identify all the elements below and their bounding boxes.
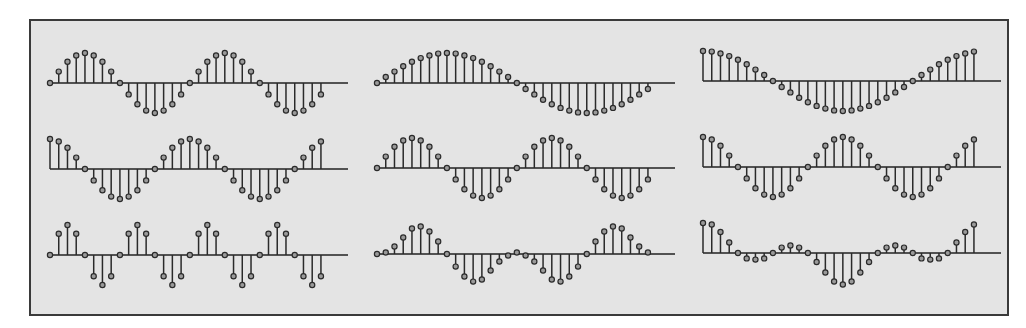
stem-marker xyxy=(248,69,253,74)
stem-marker xyxy=(506,177,511,182)
stem-marker xyxy=(823,270,828,275)
stem-marker xyxy=(135,102,140,107)
stem-marker xyxy=(409,226,414,231)
stem-marker xyxy=(257,80,262,85)
stem-marker xyxy=(318,274,323,279)
stem-marker xyxy=(540,138,545,143)
stem-marker xyxy=(919,256,924,261)
stem-marker xyxy=(240,282,245,287)
stem-marker xyxy=(471,193,476,198)
stem-marker xyxy=(954,240,959,245)
stem-marker xyxy=(928,257,933,262)
stem-marker xyxy=(205,59,210,64)
stem-marker xyxy=(152,110,157,115)
stem-marker xyxy=(549,135,554,140)
stem-marker xyxy=(770,250,775,255)
stem-marker xyxy=(374,80,379,85)
stem-marker xyxy=(479,59,484,64)
stem-marker xyxy=(248,274,253,279)
stem-marker xyxy=(866,103,871,108)
stem-marker xyxy=(936,176,941,181)
stem-marker xyxy=(161,108,166,113)
stem-marker xyxy=(840,282,845,287)
stem-marker xyxy=(436,51,441,56)
stem-marker xyxy=(805,164,810,169)
stem-marker xyxy=(971,49,976,54)
stem-marker xyxy=(213,155,218,160)
stem-marker xyxy=(240,59,245,64)
stem-marker xyxy=(117,80,122,85)
stem-marker xyxy=(637,92,642,97)
stem-marker xyxy=(797,176,802,181)
stem-marker xyxy=(709,222,714,227)
stem-marker xyxy=(637,187,642,192)
stem-marker xyxy=(727,240,732,245)
stem-marker xyxy=(709,49,714,54)
stem-marker xyxy=(936,256,941,261)
stem-marker xyxy=(575,264,580,269)
stem-marker xyxy=(187,80,192,85)
stem-marker xyxy=(91,53,96,58)
stem-marker xyxy=(144,108,149,113)
stem-marker xyxy=(275,188,280,193)
stem-marker xyxy=(532,259,537,264)
stem-marker xyxy=(779,245,784,250)
stem-marker xyxy=(82,252,87,257)
stem-marker xyxy=(275,102,280,107)
stem-marker xyxy=(462,274,467,279)
stem-marker xyxy=(610,193,615,198)
stem-marker xyxy=(832,108,837,113)
stem-marker xyxy=(910,194,915,199)
stem-marker xyxy=(567,274,572,279)
stem-marker xyxy=(275,222,280,227)
stem-marker xyxy=(770,194,775,199)
stem-plot-row2-col2 xyxy=(374,135,675,200)
stem-marker xyxy=(523,154,528,159)
stem-marker xyxy=(735,164,740,169)
stem-marker xyxy=(884,176,889,181)
stem-marker xyxy=(74,155,79,160)
stem-marker xyxy=(901,245,906,250)
stem-marker xyxy=(884,95,889,100)
stem-marker xyxy=(788,90,793,95)
stem-marker xyxy=(56,69,61,74)
stem-marker xyxy=(301,155,306,160)
stem-plot-row2-col1 xyxy=(47,136,348,201)
stem-marker xyxy=(744,176,749,181)
stem-marker xyxy=(718,51,723,56)
stem-marker xyxy=(558,279,563,284)
stem-marker xyxy=(374,165,379,170)
stem-marker xyxy=(401,235,406,240)
stem-marker xyxy=(152,252,157,257)
stem-marker xyxy=(727,54,732,59)
stem-marker xyxy=(488,268,493,273)
stem-marker xyxy=(471,56,476,61)
stem-marker xyxy=(418,138,423,143)
stem-marker xyxy=(610,224,615,229)
stem-marker xyxy=(910,250,915,255)
stem-marker xyxy=(418,224,423,229)
stem-marker xyxy=(549,277,554,282)
stem-marker xyxy=(840,134,845,139)
stem-marker xyxy=(383,154,388,159)
stem-marker xyxy=(963,51,968,56)
stem-marker xyxy=(205,145,210,150)
stem-marker xyxy=(170,102,175,107)
stem-marker xyxy=(700,220,705,225)
stem-marker xyxy=(74,53,79,58)
stem-marker xyxy=(257,252,262,257)
stem-marker xyxy=(409,59,414,64)
stem-marker xyxy=(471,279,476,284)
stem-marker xyxy=(462,187,467,192)
stem-marker xyxy=(602,229,607,234)
stem-marker xyxy=(901,84,906,89)
stem-marker xyxy=(753,67,758,72)
stem-marker xyxy=(427,229,432,234)
stem-marker xyxy=(135,188,140,193)
stem-marker xyxy=(310,102,315,107)
stem-marker xyxy=(392,244,397,249)
stem-marker xyxy=(735,57,740,62)
stem-marker xyxy=(540,97,545,102)
stem-marker xyxy=(117,252,122,257)
stem-marker xyxy=(514,165,519,170)
